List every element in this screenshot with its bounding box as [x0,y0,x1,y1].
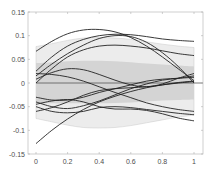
x-tick-label: 0.4 [94,158,104,165]
y-tick-label: 0.05 [11,56,25,63]
y-tick-label: 0.1 [15,32,25,39]
chart: 00.20.40.60.81 0.150.10.050-0.05-0.1-0.1… [0,0,216,175]
y-tick-label: -0.05 [9,103,25,110]
x-tick-label: 0 [34,158,38,165]
x-tick-label: 0.2 [63,158,73,165]
plot-area [36,29,203,143]
inner-band [36,61,194,104]
y-tick-label: -0.1 [13,127,25,134]
x-tick-label: 0.8 [158,158,168,165]
x-tick-label: 1 [192,158,196,165]
y-tick-label: -0.15 [9,151,25,158]
x-tick-label: 0.6 [126,158,136,165]
y-tick-label: 0.15 [11,9,25,16]
y-tick-label: 0 [21,80,25,87]
